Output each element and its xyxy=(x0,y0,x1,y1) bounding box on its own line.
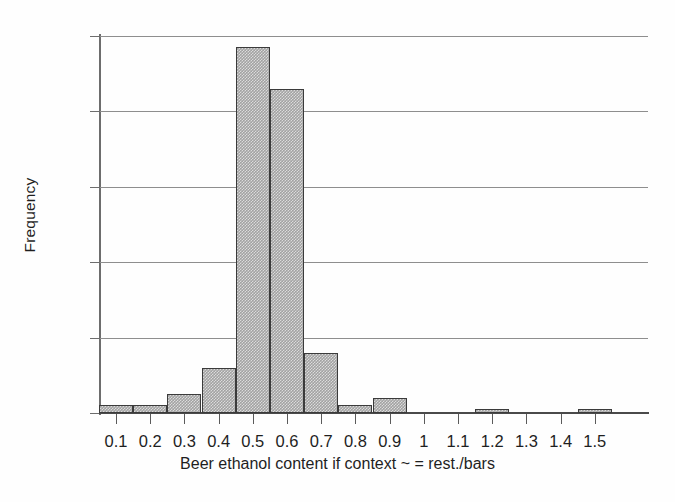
histogram-bar xyxy=(270,89,304,413)
histogram-bar xyxy=(373,398,407,413)
histogram-bar xyxy=(133,405,167,413)
x-axis-tick-label: 1.5 xyxy=(565,432,625,451)
y-axis-tick xyxy=(90,413,99,414)
x-axis-tick xyxy=(458,414,459,424)
y-axis-tick xyxy=(90,262,99,263)
histogram-bar xyxy=(338,405,372,413)
x-axis-tick xyxy=(150,414,151,424)
x-axis-tick xyxy=(526,414,527,424)
gridline xyxy=(100,36,648,37)
y-axis-title: Frequency xyxy=(10,0,50,430)
x-axis-tick xyxy=(424,414,425,424)
histogram-bar xyxy=(202,368,236,413)
histogram-figure: Frequency 0204060801000.10.20.30.40.50.6… xyxy=(0,0,675,502)
y-axis-tick xyxy=(90,338,99,339)
gridline xyxy=(100,262,648,263)
x-axis-tick xyxy=(561,414,562,424)
gridline xyxy=(100,338,648,339)
histogram-bar xyxy=(578,409,612,413)
gridline xyxy=(100,111,648,112)
x-axis-tick xyxy=(492,414,493,424)
x-axis-tick xyxy=(355,414,356,424)
y-axis-title-text: Frequency xyxy=(21,177,39,252)
x-axis-tick xyxy=(116,414,117,424)
histogram-bar xyxy=(475,409,509,413)
y-axis-tick xyxy=(90,187,99,188)
gridline xyxy=(100,187,648,188)
x-axis-tick xyxy=(595,414,596,424)
x-axis-tick xyxy=(390,414,391,424)
y-axis-tick xyxy=(90,36,99,37)
histogram-bar xyxy=(167,394,201,413)
plot-area: 0204060801000.10.20.30.40.50.60.70.80.91… xyxy=(100,36,648,413)
x-axis-tick xyxy=(287,414,288,424)
y-axis-tick xyxy=(90,111,99,112)
histogram-bar xyxy=(99,405,133,413)
histogram-bar xyxy=(236,47,270,413)
x-axis-title: Beer ethanol content if context ~ = rest… xyxy=(0,455,675,473)
x-axis-tick xyxy=(184,414,185,424)
x-axis-tick xyxy=(321,414,322,424)
histogram-bar xyxy=(304,353,338,413)
x-axis-tick xyxy=(219,414,220,424)
x-axis-tick xyxy=(253,414,254,424)
